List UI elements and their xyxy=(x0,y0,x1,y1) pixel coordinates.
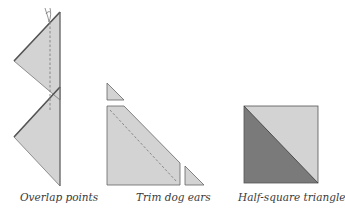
trim-dog-ears-figure xyxy=(107,83,204,185)
overlap-points-figure xyxy=(14,8,60,186)
right-dog-ear xyxy=(185,166,204,185)
thread-tail-icon xyxy=(45,8,51,22)
caption-overlap-points: Overlap points xyxy=(20,191,98,203)
caption-trim-dog-ears: Trim dog ears xyxy=(136,191,211,203)
upper-triangle xyxy=(14,12,60,100)
top-dog-ear xyxy=(107,83,124,100)
lower-triangle xyxy=(14,87,60,186)
half-square-triangle-figure xyxy=(244,106,318,183)
caption-half-square-triangle: Half-square triangle xyxy=(238,191,345,203)
